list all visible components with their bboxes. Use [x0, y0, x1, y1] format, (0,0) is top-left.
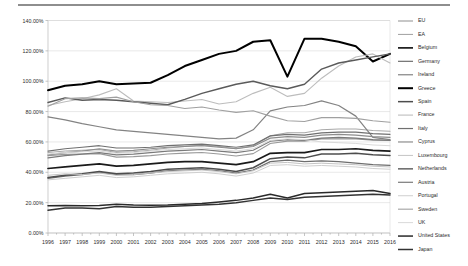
series-line-sweden	[48, 97, 390, 122]
x-tick-label: 2006	[213, 239, 225, 245]
x-tick-label: 2002	[145, 239, 157, 245]
x-tick-label: 1997	[59, 239, 71, 245]
y-tick-label: 80.00%	[26, 109, 44, 115]
series-line-greece	[48, 39, 390, 91]
x-tick-label: 2012	[316, 239, 328, 245]
y-axis-tick-labels: 0.00%20.00%40.00%60.00%80.00%100.00%120.…	[23, 18, 44, 237]
legend-label-luxembourg: Luxembourg	[418, 152, 447, 158]
x-tick-label: 2016	[384, 239, 396, 245]
legend-label-portugal: Portugal	[418, 192, 438, 198]
x-tick-label: 1999	[93, 239, 105, 245]
x-tick-label: 2007	[230, 239, 242, 245]
x-tick-label: 2014	[350, 239, 362, 245]
legend-label-eu: EU	[418, 17, 426, 23]
y-tick-label: 60.00%	[26, 139, 44, 145]
legend-label-france: France	[418, 111, 435, 117]
series-line-netherlands	[48, 54, 390, 105]
legend-label-greece: Greece	[418, 85, 435, 91]
y-tick-label: 100.00%	[23, 78, 44, 84]
series-lines	[48, 39, 390, 211]
x-tick-label: 1998	[76, 239, 88, 245]
x-tick-label: 2005	[196, 239, 208, 245]
x-axis-tick-marks	[48, 233, 390, 236]
legend-label-austria: Austria	[418, 179, 435, 185]
x-axis-tick-labels: 1996199719981999200020012002200320042005…	[42, 239, 396, 245]
y-tick-label: 0.00%	[28, 230, 43, 236]
legend-label-netherlands: Netherlands	[418, 165, 447, 171]
x-tick-label: 2003	[162, 239, 174, 245]
y-tick-label: 20.00%	[26, 200, 44, 206]
legend-label-japan: Japan	[418, 246, 432, 252]
legend-label-ireland: Ireland	[418, 71, 434, 77]
legend-label-ea: EA	[418, 31, 426, 37]
x-tick-label: 2010	[282, 239, 294, 245]
line-chart: 0.00%20.00%40.00%60.00%80.00%100.00%120.…	[0, 0, 468, 266]
legend-label-cyprus: Cyprus	[418, 138, 435, 144]
series-line-united-states	[48, 191, 390, 206]
legend-label-italy: Italy	[418, 125, 428, 131]
legend-label-united-states: United States	[418, 232, 450, 238]
y-tick-label: 40.00%	[26, 169, 44, 175]
y-tick-label: 140.00%	[23, 18, 44, 24]
chart-figure: 0.00%20.00%40.00%60.00%80.00%100.00%120.…	[0, 0, 468, 266]
legend-label-spain: Spain	[418, 98, 432, 104]
x-tick-label: 2015	[367, 239, 379, 245]
series-line-belgium	[48, 149, 390, 169]
x-tick-label: 2013	[333, 239, 345, 245]
x-tick-label: 2011	[299, 239, 310, 245]
legend-label-belgium: Belgium	[418, 44, 438, 50]
x-tick-label: 2000	[111, 239, 123, 245]
legend-label-sweden: Sweden	[418, 206, 437, 212]
x-tick-label: 2004	[179, 239, 191, 245]
y-tick-label: 120.00%	[23, 48, 44, 54]
legend-label-germany: Germany	[418, 58, 440, 64]
x-tick-label: 1996	[42, 239, 54, 245]
legend-label-uk: UK	[418, 219, 426, 225]
chart-legend: EUEABelgiumGermanyIrelandGreeceSpainFran…	[398, 17, 450, 252]
x-tick-label: 2001	[128, 239, 140, 245]
x-tick-label: 2008	[247, 239, 259, 245]
series-line-france	[48, 54, 390, 106]
x-tick-label: 2009	[264, 239, 276, 245]
